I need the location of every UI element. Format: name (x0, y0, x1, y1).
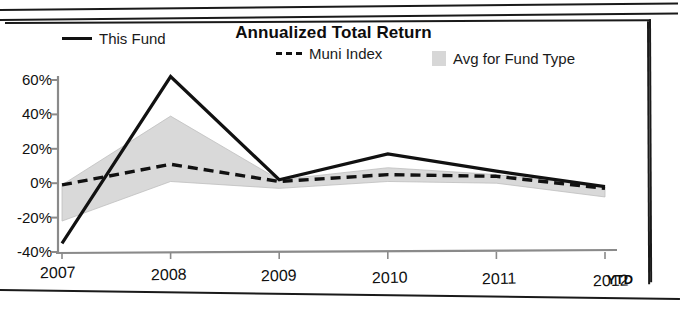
legend-item-muni-index: Muni Index (276, 45, 382, 62)
y-axis-tick-label: 40% (0, 107, 52, 121)
x-axis-tick-label: 2010 (372, 268, 408, 287)
x-axis-tick-label: 2007 (40, 264, 76, 283)
chart-svg (58, 80, 613, 252)
y-axis-tick-label: -40% (0, 245, 52, 259)
y-axis-tick-label: 60% (0, 73, 52, 87)
legend-item-avg-for-fund-type: Avg for Fund Type (432, 50, 575, 67)
x-axis-tick-label: 2011 (482, 270, 517, 289)
scan-artifact-line-bottom (0, 289, 680, 300)
legend-label-muni-index: Muni Index (309, 45, 382, 62)
x-axis-tick-label: 2009 (261, 267, 297, 286)
y-axis-tick-label: 20% (0, 142, 52, 156)
legend-label-this-fund: This Fund (99, 30, 166, 47)
x-axis-label-group: 200720082009201020112012 (0, 258, 667, 288)
plot-area (58, 80, 613, 252)
legend-label-avg-for-fund-type: Avg for Fund Type (453, 50, 575, 67)
y-axis-tick-label: 0% (0, 176, 52, 190)
solid-line-key-icon (62, 37, 92, 40)
scan-artifact-line-top-outer (0, 2, 678, 11)
gray-swatch-key-icon (432, 51, 446, 66)
x-axis-ytd-label: YTD (607, 272, 633, 287)
x-axis-tick-label: 2008 (150, 265, 186, 284)
dashed-line-key-icon (276, 52, 302, 55)
y-axis-tick-label: -20% (0, 211, 52, 225)
legend-item-this-fund: This Fund (62, 30, 166, 47)
chart-frame-right-edge (647, 21, 650, 284)
